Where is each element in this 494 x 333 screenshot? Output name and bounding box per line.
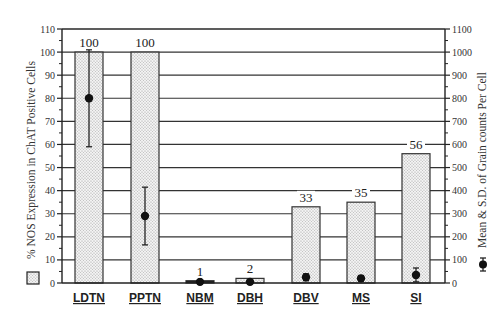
y-tick-label: 30 — [45, 208, 55, 219]
y-tick-label: 110 — [40, 24, 55, 35]
y-tick-label: 90 — [45, 70, 55, 81]
y2-tick-label: 800 — [452, 93, 467, 104]
y-tick-label: 20 — [45, 231, 55, 242]
y-tick-label: 100 — [40, 47, 55, 58]
mean-marker — [246, 278, 254, 286]
y-tick-label: 50 — [45, 162, 55, 173]
y2-tick-label: 1100 — [452, 24, 472, 35]
y-tick-label: 60 — [45, 139, 55, 150]
bar-chart: 0102030405060708090100110010020030040050… — [0, 0, 494, 333]
mean-marker — [196, 278, 204, 286]
bar-pptn — [131, 52, 159, 283]
bar-dbv — [292, 207, 320, 283]
bar-value-label: 2 — [247, 261, 254, 276]
legend-errorbar-marker — [479, 261, 487, 269]
y2-tick-label: 100 — [452, 254, 467, 265]
mean-marker — [412, 271, 420, 279]
category-label: MS — [352, 291, 370, 305]
bar-value-label: 35 — [355, 185, 368, 200]
category-label: NBM — [186, 291, 213, 305]
category-label: DBH — [237, 291, 263, 305]
bar-value-label: 1 — [197, 264, 204, 279]
y-tick-label: 40 — [45, 185, 55, 196]
y2-tick-label: 500 — [452, 162, 467, 173]
mean-marker — [85, 94, 93, 102]
category-label: PPTN — [129, 291, 161, 305]
y2-tick-label: 400 — [452, 185, 467, 196]
bar-ms — [347, 202, 375, 283]
bar-value-label: 56 — [410, 137, 424, 152]
y2-tick-label: 300 — [452, 208, 467, 219]
y2-axis-title: Mean & S.D. of Grain counts Per Cell — [476, 72, 488, 248]
category-label: LDTN — [73, 291, 105, 305]
bar-si — [402, 154, 430, 283]
y-tick-label: 0 — [50, 278, 55, 289]
y-tick-label: 80 — [45, 93, 55, 104]
y-tick-label: 10 — [45, 254, 55, 265]
y2-tick-label: 200 — [452, 231, 467, 242]
y-tick-label: 70 — [45, 116, 55, 127]
category-label: DBV — [293, 291, 318, 305]
mean-marker — [141, 212, 149, 220]
y2-tick-label: 1000 — [452, 47, 472, 58]
legend-bar-swatch — [27, 272, 39, 284]
bar-value-label: 33 — [300, 190, 313, 205]
y-axis-title: % NOS Expression in ChAT Positive Cells — [25, 61, 38, 259]
y2-tick-label: 0 — [452, 278, 457, 289]
bar-value-label: 100 — [79, 35, 99, 50]
y2-tick-label: 900 — [452, 70, 467, 81]
y2-tick-label: 600 — [452, 139, 467, 150]
gridlines — [62, 29, 445, 260]
mean-marker — [357, 274, 365, 282]
mean-marker — [302, 273, 310, 281]
category-label: SI — [410, 291, 421, 305]
y2-tick-label: 700 — [452, 116, 467, 127]
bar-value-label: 100 — [135, 35, 155, 50]
